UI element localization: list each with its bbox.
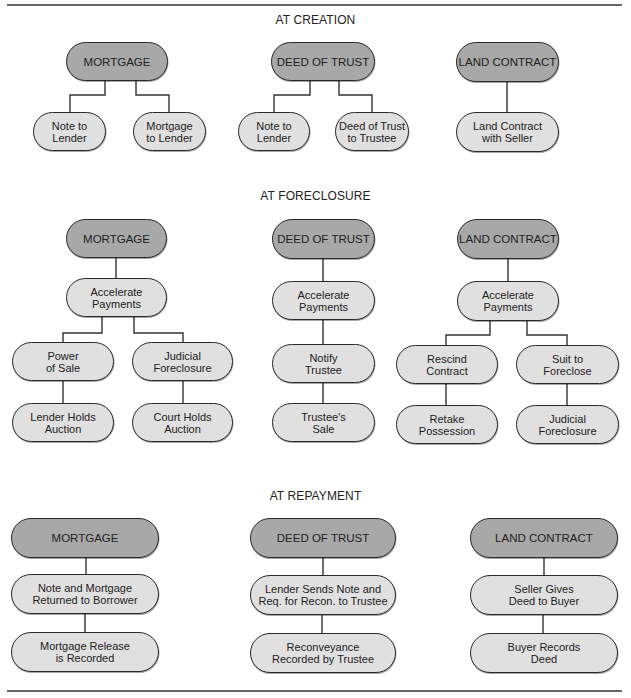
creation-deed-to-trustee-node: Deed of Trust to Trustee — [335, 112, 409, 151]
repayment-note-returned-node: Note and Mortgage Returned to Borrower — [11, 574, 159, 614]
foreclosure-mortgage-accelerate-node: Accelerate Payments — [66, 278, 167, 317]
creation-mortgage-node: MORTGAGE — [66, 42, 168, 81]
creation-note-to-lender-node: Note to Lender — [33, 112, 106, 151]
foreclosure-lender-holds-auction-node: Lender Holds Auction — [12, 403, 114, 442]
foreclosure-suit-to-foreclose-node: Suit to Foreclose — [516, 345, 619, 384]
section-title-foreclosure: AT FORECLOSURE — [0, 189, 631, 203]
foreclosure-lc-accelerate-node: Accelerate Payments — [457, 281, 559, 321]
repayment-reconveyance-node: Reconveyance Recorded by Trustee — [250, 633, 396, 673]
repayment-mortgage-release-node: Mortgage Release is Recorded — [11, 632, 159, 672]
repayment-land-contract-node: LAND CONTRACT — [470, 518, 618, 558]
section-title-repayment: AT REPAYMENT — [0, 489, 631, 503]
foreclosure-dot-accelerate-node: Accelerate Payments — [272, 281, 375, 320]
creation-mortgage-to-lender-node: Mortgage to Lender — [133, 112, 206, 151]
repayment-buyer-records-deed-node: Buyer Records Deed — [470, 633, 618, 673]
repayment-mortgage-node: MORTGAGE — [11, 518, 159, 558]
connector — [136, 80, 169, 112]
creation-deed-of-trust-node: DEED OF TRUST — [271, 42, 375, 81]
repayment-lender-sends-note-node: Lender Sends Note and Req. for Recon. to… — [250, 575, 396, 615]
creation-note-to-lender-node-2: Note to Lender — [238, 112, 310, 151]
creation-land-contract-node: LAND CONTRACT — [456, 42, 559, 82]
foreclosure-power-of-sale-node: Power of Sale — [12, 342, 114, 381]
connector — [274, 80, 310, 112]
foreclosure-lc-judicial-foreclosure-node: Judicial Foreclosure — [516, 405, 619, 444]
foreclosure-trustees-sale-node: Trustee's Sale — [272, 403, 375, 442]
foreclosure-notify-trustee-node: Notify Trustee — [272, 344, 375, 383]
foreclosure-court-holds-auction-node: Court Holds Auction — [132, 403, 233, 442]
connector — [339, 80, 372, 112]
foreclosure-retake-possession-node: Retake Possession — [396, 405, 498, 444]
repayment-seller-gives-deed-node: Seller Gives Deed to Buyer — [470, 575, 618, 615]
connector — [70, 80, 105, 112]
connector — [446, 321, 490, 345]
foreclosure-deed-of-trust-node: DEED OF TRUST — [272, 219, 375, 259]
creation-land-contract-with-seller-node: Land Contract with Seller — [456, 112, 559, 152]
foreclosure-rescind-contract-node: Rescind Contract — [396, 345, 498, 384]
connector — [134, 317, 183, 342]
foreclosure-land-contract-node: LAND CONTRACT — [457, 219, 559, 259]
foreclosure-mortgage-node: MORTGAGE — [66, 219, 167, 258]
connector — [63, 317, 102, 342]
foreclosure-judicial-foreclosure-node: Judicial Foreclosure — [132, 342, 233, 381]
section-title-creation: AT CREATION — [0, 13, 631, 27]
repayment-deed-of-trust-node: DEED OF TRUST — [250, 518, 396, 558]
connector — [527, 321, 567, 345]
